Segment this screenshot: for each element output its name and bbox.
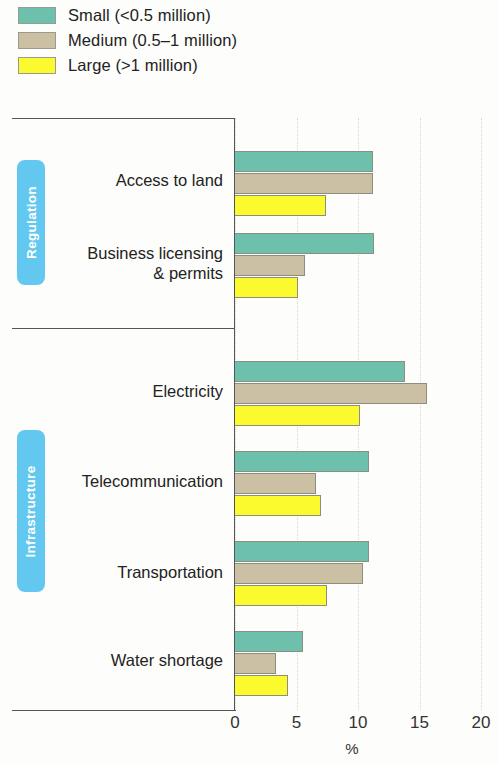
legend-item-medium: Medium (0.5–1 million): [18, 31, 237, 50]
legend-swatch-small-icon: [18, 7, 56, 24]
legend-swatch-medium-icon: [18, 32, 56, 49]
bar: [235, 563, 363, 584]
bar: [235, 451, 369, 472]
bar: [235, 195, 326, 216]
x-axis-line: [12, 710, 236, 711]
x-tick-label-5: 5: [292, 713, 301, 733]
bar: [235, 631, 303, 652]
category-label-transportation: Transportation: [117, 562, 223, 582]
bar: [235, 653, 276, 674]
category-label-access-to-land: Access to land: [116, 170, 223, 190]
chart-bars: [235, 118, 499, 710]
bar: [235, 541, 369, 562]
category-label-telecommunication: Telecommunication: [82, 471, 223, 491]
legend-label-small: Small (<0.5 million): [68, 6, 211, 25]
x-tick-label-0: 0: [230, 713, 239, 733]
chart-plot-area: Regulation Infrastructure Access to land…: [0, 110, 499, 720]
group-badge-infrastructure: Infrastructure: [17, 430, 45, 592]
bar: [235, 361, 405, 382]
legend-label-large: Large (>1 million): [68, 56, 198, 75]
bar: [235, 277, 298, 298]
bar: [235, 151, 373, 172]
bar: [235, 383, 427, 404]
category-label-electricity: Electricity: [152, 381, 223, 401]
panel-group-separator: [12, 328, 235, 329]
x-tick-label-15: 15: [410, 713, 429, 733]
x-axis-title: %: [345, 740, 358, 757]
group-badge-regulation: Regulation: [17, 160, 45, 285]
chart-legend: Small (<0.5 million) Medium (0.5–1 milli…: [18, 6, 237, 75]
bar: [235, 473, 316, 494]
legend-item-large: Large (>1 million): [18, 56, 237, 75]
category-label-water-shortage: Water shortage: [111, 650, 223, 670]
group-badge-regulation-label: Regulation: [24, 186, 39, 259]
x-tick-label-10: 10: [349, 713, 368, 733]
legend-label-medium: Medium (0.5–1 million): [68, 31, 237, 50]
bar: [235, 675, 288, 696]
bar: [235, 405, 360, 426]
bar: [235, 173, 373, 194]
panel-top-border: [12, 118, 235, 119]
category-label-business-licensing: Business licensing & permits: [87, 243, 223, 283]
legend-swatch-large-icon: [18, 57, 56, 74]
bar: [235, 255, 305, 276]
group-badge-infrastructure-label: Infrastructure: [24, 465, 39, 557]
bar: [235, 233, 374, 254]
bar: [235, 495, 321, 516]
bar: [235, 585, 327, 606]
x-tick-label-20: 20: [472, 713, 491, 733]
legend-item-small: Small (<0.5 million): [18, 6, 237, 25]
